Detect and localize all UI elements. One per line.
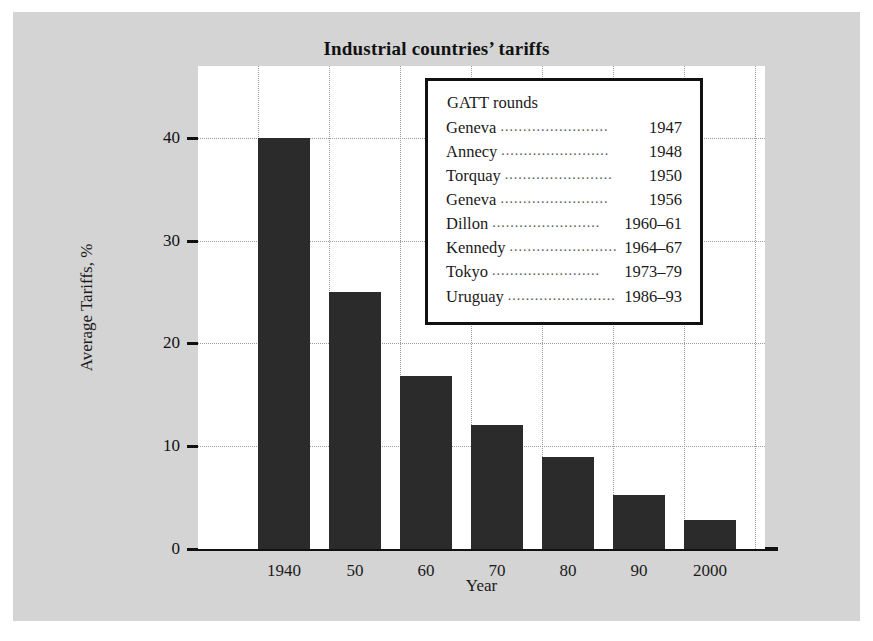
legend-leader-dots: ........................ [500,189,645,209]
x-tick-label: 2000 [693,561,727,581]
chart-panel: Industrial countries’ tariffs Average Ta… [13,12,860,621]
x-tick-label: 60 [418,561,435,581]
y-tick-label: 0 [172,539,181,559]
legend-row: Uruguay........................1986–93 [446,285,682,309]
legend-round-year: 1964–67 [624,236,682,260]
legend-leader-dots: ........................ [505,165,645,185]
y-tick-label: 20 [163,333,180,353]
bar [613,495,665,549]
legend-round-name: Geneva [446,188,496,212]
bar [471,425,523,549]
x-tick-label: 50 [347,561,364,581]
y-axis-label: Average Tariffs, % [77,66,99,549]
legend-round-name: Geneva [446,116,496,140]
legend-round-name: Annecy [446,140,497,164]
x-tick-label: 1940 [267,561,301,581]
legend-row: Geneva........................1956 [446,188,682,212]
figure-canvas: Industrial countries’ tariffs Average Ta… [0,0,873,641]
y-tick-mark [187,342,198,345]
y-tick-mark [187,137,198,140]
legend-round-name: Torquay [446,164,501,188]
legend-round-year: 1973–79 [624,260,682,284]
legend-round-year: 1956 [649,188,682,212]
bar [684,520,736,549]
legend-row: Geneva........................1947 [446,116,682,140]
chart-title: Industrial countries’ tariffs [13,38,860,60]
legend-round-year: 1947 [649,116,682,140]
legend-leader-dots: ........................ [508,286,621,306]
legend-title: GATT rounds [446,93,682,113]
legend-row: Kennedy........................1964–67 [446,236,682,260]
legend-round-year: 1950 [649,164,682,188]
bar [542,457,594,549]
legend-leader-dots: ........................ [500,117,645,137]
x-tick-label: 80 [560,561,577,581]
legend-rows: Geneva........................1947Annecy… [446,116,682,309]
y-tick-label: 40 [163,128,180,148]
x-tick-label: 90 [631,561,648,581]
legend-leader-dots: ........................ [492,213,620,233]
bar [258,138,310,549]
y-tick-mark [187,240,198,243]
legend-row: Tokyo........................1973–79 [446,260,682,284]
legend-row: Torquay........................1950 [446,164,682,188]
y-tick-label: 10 [163,436,180,456]
legend-box: GATT rounds Geneva......................… [425,78,703,325]
y-tick-mark [187,548,198,551]
legend-round-year: 1986–93 [624,285,682,309]
y-tick-mark [187,445,198,448]
legend-round-name: Uruguay [446,285,504,309]
y-tick-label: 30 [163,231,180,251]
legend-round-name: Kennedy [446,236,506,260]
legend-leader-dots: ........................ [510,237,621,257]
legend-round-year: 1948 [649,140,682,164]
legend-row: Annecy........................1948 [446,140,682,164]
legend-leader-dots: ........................ [492,261,620,281]
x-tick-label: 70 [489,561,506,581]
gridline-x [755,66,756,549]
bar [400,376,452,549]
legend-round-name: Dillon [446,212,488,236]
legend-round-name: Tokyo [446,260,488,284]
legend-round-year: 1960–61 [624,212,682,236]
legend-row: Dillon........................1960–61 [446,212,682,236]
bar [329,292,381,549]
legend-leader-dots: ........................ [501,141,645,161]
